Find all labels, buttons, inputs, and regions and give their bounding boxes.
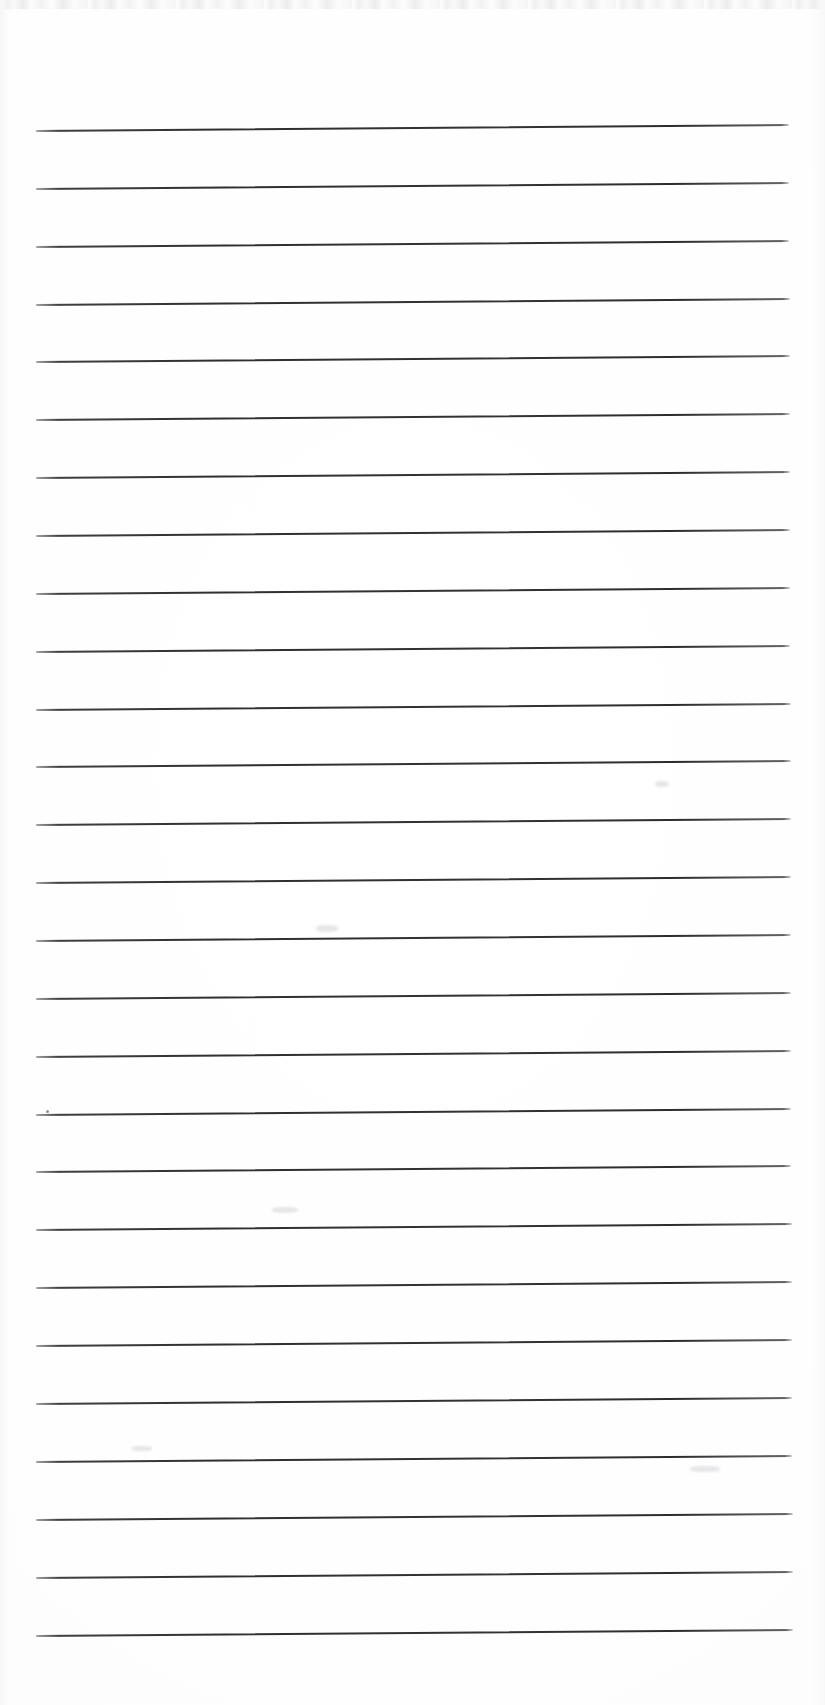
rule-line: [36, 413, 790, 421]
rule-line: [36, 1513, 793, 1521]
rule-line: [36, 703, 791, 711]
rule-line: [36, 876, 791, 884]
rule-line: [36, 645, 790, 653]
rule-line: [36, 1397, 792, 1405]
rule-line: [36, 1455, 792, 1463]
rule-line: [36, 934, 791, 942]
rule-line: [36, 1050, 791, 1058]
rule-line: [36, 1108, 791, 1116]
paper-surface: [0, 0, 825, 1705]
rule-line: [36, 992, 791, 1000]
scan-smudge: [272, 1207, 298, 1213]
rule-line: [36, 355, 790, 363]
scan-smudge: [132, 1446, 152, 1451]
scan-smudge: [655, 781, 669, 787]
rule-line: [36, 760, 791, 768]
scan-right-shadow: [811, 0, 825, 1705]
rule-line: [36, 818, 791, 826]
rule-line: [36, 1571, 793, 1579]
scan-left-shadow: [0, 0, 10, 1705]
scan-smudge: [690, 1466, 720, 1472]
scan-smudge: [316, 925, 338, 932]
scanned-page: [0, 0, 825, 1705]
scan-speck: [46, 1110, 49, 1113]
rule-line: [36, 471, 790, 479]
rule-line: [36, 240, 789, 248]
rule-line: [36, 124, 789, 132]
rule-line: [36, 298, 790, 306]
rule-line: [36, 1165, 791, 1173]
rule-line: [36, 1339, 792, 1347]
rule-line: [36, 1629, 793, 1637]
rule-line: [36, 1223, 792, 1231]
rule-line: [36, 529, 790, 537]
rule-line: [36, 587, 790, 595]
scanner-edge-artifact: [0, 0, 825, 9]
rule-line: [36, 182, 789, 190]
rule-line: [36, 1281, 792, 1289]
